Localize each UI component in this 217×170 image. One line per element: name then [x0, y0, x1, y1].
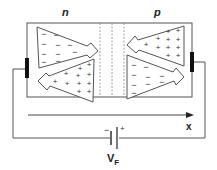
svg-text:−: −: [131, 70, 136, 80]
svg-text:−: −: [145, 79, 150, 89]
x-axis-label: x: [186, 121, 192, 132]
svg-text:−: −: [143, 62, 148, 72]
svg-text:−: −: [131, 60, 136, 70]
battery-minus-label: −: [104, 125, 109, 135]
depletion-region-boundaries: [100, 23, 124, 97]
p-region-label: p: [153, 6, 161, 18]
svg-text:−: −: [55, 56, 60, 66]
right-contact: [190, 52, 194, 72]
svg-text:+: +: [87, 87, 92, 96]
svg-text:−: −: [159, 77, 164, 87]
svg-text:−: −: [41, 29, 46, 39]
svg-text:+: +: [156, 43, 161, 52]
svg-text:+: +: [87, 60, 92, 69]
n-region-label: n: [62, 6, 69, 18]
x-axis-arrow: [28, 112, 194, 118]
svg-text:+: +: [53, 77, 58, 86]
svg-text:−: −: [131, 88, 136, 98]
svg-text:+: +: [64, 69, 69, 78]
svg-text:+: +: [87, 70, 92, 79]
svg-text:+: +: [176, 26, 181, 35]
svg-text:+: +: [144, 40, 149, 49]
svg-text:+: +: [166, 51, 171, 60]
svg-text:−: −: [53, 30, 58, 40]
svg-text:+: +: [176, 51, 181, 60]
svg-text:+: +: [77, 87, 82, 96]
left-contact: [25, 58, 29, 78]
svg-text:+: +: [65, 79, 70, 88]
battery-plus-label: +: [120, 124, 125, 133]
voltage-label: VF: [107, 152, 119, 167]
battery-icon: [111, 127, 117, 149]
svg-text:−: −: [41, 39, 46, 49]
pn-junction-diagram: n p −− −−− −−− −− ++ +++ ++++ ++ ++ +++: [0, 0, 217, 170]
svg-text:−: −: [41, 57, 46, 67]
svg-text:−: −: [72, 47, 77, 57]
svg-text:+: +: [156, 34, 161, 43]
